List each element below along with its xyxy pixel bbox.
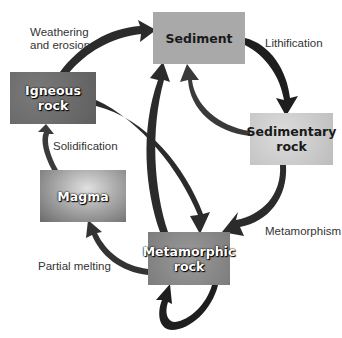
node-sedimentary-label-line2: rock	[247, 139, 337, 154]
node-igneous-label-line2: rock	[25, 98, 81, 113]
node-sedimentary-label-line1: Sedimentary	[247, 124, 337, 139]
node-sediment-label: Sediment	[165, 31, 232, 46]
node-sediment: Sediment	[153, 12, 245, 64]
node-magma: Magma	[40, 170, 126, 222]
node-igneous-label-line1: Igneous	[25, 83, 81, 98]
node-magma-label: Magma	[57, 189, 108, 204]
node-metamorphic-label-line2: rock	[143, 259, 236, 274]
label-weathering-line1: Weathering	[30, 26, 90, 39]
arrow-metamorphic-loop	[156, 284, 218, 330]
rock-cycle-diagram: Sediment Igneous rock Sedimentary rock M…	[0, 0, 342, 338]
node-metamorphic-label-line1: Metamorphic	[143, 244, 236, 259]
label-weathering-line2: and erosion	[30, 39, 90, 52]
label-partial-melting: Partial melting	[38, 260, 111, 273]
label-solidification: Solidification	[53, 140, 118, 153]
node-igneous-rock: Igneous rock	[10, 72, 96, 124]
arrow-sedimentary-to-sediment	[180, 64, 250, 136]
label-lithification: Lithification	[265, 37, 323, 50]
label-weathering-and-erosion: Weathering and erosion	[30, 26, 90, 52]
node-metamorphic-rock: Metamorphic rock	[148, 232, 230, 285]
node-sedimentary-rock: Sedimentary rock	[250, 113, 333, 165]
label-metamorphism: Metamorphism	[265, 225, 341, 238]
